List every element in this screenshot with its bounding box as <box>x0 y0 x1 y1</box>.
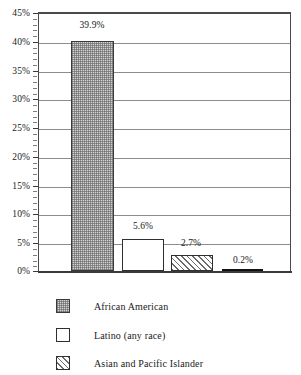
y-minor-tick <box>33 209 37 210</box>
data-label: 0.2% <box>233 255 253 265</box>
legend-item-latino: Latino (any race) <box>56 327 165 343</box>
clipped-title-sliver <box>60 0 260 2</box>
y-axis: 45% 40% 35% 30% 25% 20% 15% 10% 5% 0% <box>0 0 38 284</box>
y-minor-tick <box>33 134 37 135</box>
y-minor-tick <box>33 168 37 169</box>
y-minor-tick <box>33 261 37 262</box>
legend-item-african-american: African American <box>56 298 168 314</box>
y-minor-tick <box>33 255 37 256</box>
y-minor-tick <box>33 36 37 37</box>
bar-latino <box>122 239 164 271</box>
y-minor-tick <box>33 232 37 233</box>
y-minor-tick <box>33 145 37 146</box>
bar-asian-pacific-islander <box>171 255 213 271</box>
y-minor-tick <box>33 59 37 60</box>
y-tick-label: 45% <box>12 8 30 18</box>
x-axis-baseline <box>38 271 292 273</box>
y-minor-tick <box>33 30 37 31</box>
y-minor-tick <box>33 226 37 227</box>
y-tick-label: 5% <box>17 238 30 248</box>
legend-label: Latino (any race) <box>94 330 165 341</box>
y-minor-tick <box>33 266 37 267</box>
y-minor-tick <box>33 122 37 123</box>
y-minor-tick <box>33 220 37 221</box>
y-minor-tick <box>33 203 37 204</box>
y-minor-tick <box>33 65 37 66</box>
y-minor-tick <box>33 249 37 250</box>
bar-african-american <box>71 41 114 271</box>
bar-chart: 45% 40% 35% 30% 25% 20% 15% 10% 5% 0% <box>0 0 301 375</box>
y-minor-tick <box>33 117 37 118</box>
y-minor-tick <box>33 82 37 83</box>
y-minor-tick <box>33 94 37 95</box>
y-minor-tick <box>33 25 37 26</box>
legend-label: Asian and Pacific Islander <box>94 358 203 369</box>
y-minor-tick <box>33 76 37 77</box>
legend-swatch-stipple-icon <box>56 299 70 313</box>
y-minor-tick <box>33 180 37 181</box>
y-tick-label: 35% <box>12 66 30 76</box>
data-label: 5.6% <box>133 221 153 231</box>
y-minor-tick <box>33 151 37 152</box>
legend-item-asian-pacific-islander: Asian and Pacific Islander <box>56 355 203 371</box>
y-minor-tick <box>33 174 37 175</box>
legend-swatch-hatch-icon <box>56 356 70 370</box>
y-minor-tick <box>33 19 37 20</box>
y-minor-tick <box>33 53 37 54</box>
y-minor-tick <box>33 163 37 164</box>
y-minor-tick <box>33 140 37 141</box>
y-tick-label: 10% <box>12 209 30 219</box>
y-minor-tick <box>33 105 37 106</box>
y-minor-tick <box>33 197 37 198</box>
y-minor-tick <box>33 48 37 49</box>
y-tick-label: 30% <box>12 94 30 104</box>
plot-area <box>38 12 291 272</box>
y-minor-tick <box>33 88 37 89</box>
y-minor-tick <box>33 191 37 192</box>
y-minor-tick <box>33 237 37 238</box>
legend-label: African American <box>94 301 168 312</box>
y-minor-tick <box>33 111 37 112</box>
y-tick-label: 25% <box>12 123 30 133</box>
y-tick-label: 20% <box>12 152 30 162</box>
legend-swatch-open-icon <box>56 328 70 342</box>
y-tick-label: 40% <box>12 37 30 47</box>
y-tick-label: 0% <box>17 266 30 276</box>
y-tick-label: 15% <box>12 181 30 191</box>
data-label: 39.9% <box>79 20 104 30</box>
data-label: 2.7% <box>181 238 201 248</box>
